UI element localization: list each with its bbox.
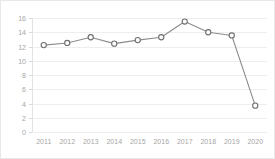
x-tick-label: 2016 xyxy=(153,138,169,145)
x-tick-label: 2014 xyxy=(106,138,122,145)
x-tick-label: 2011 xyxy=(36,138,51,145)
x-tick-label: 2013 xyxy=(83,138,99,145)
data-point-marker xyxy=(65,40,70,45)
series-line-1 xyxy=(44,22,256,106)
y-axis-labels: 0246810121416 xyxy=(18,15,26,136)
y-axis-ticks xyxy=(29,19,32,133)
data-point-marker xyxy=(206,30,211,35)
y-tick-label: 2 xyxy=(22,115,26,122)
y-tick-label: 10 xyxy=(18,58,26,65)
x-axis-labels: 2011201220132014201520162017201820192020 xyxy=(36,138,263,145)
x-tick-label: 2018 xyxy=(200,138,216,145)
line-chart: 0246810121416 20112012201320142015201620… xyxy=(0,0,275,159)
y-tick-label: 4 xyxy=(22,101,26,108)
y-tick-label: 0 xyxy=(22,129,26,136)
data-point-marker xyxy=(253,103,258,108)
data-point-marker xyxy=(159,35,164,40)
data-point-marker xyxy=(41,42,46,47)
data-point-marker xyxy=(182,19,187,24)
x-tick-label: 2015 xyxy=(130,138,146,145)
x-tick-label: 2012 xyxy=(59,138,75,145)
y-tick-label: 14 xyxy=(18,29,26,36)
y-tick-label: 6 xyxy=(22,86,26,93)
y-tick-label: 8 xyxy=(22,72,26,79)
y-tick-label: 12 xyxy=(18,44,26,51)
data-point-marker xyxy=(112,41,117,46)
y-tick-label: 16 xyxy=(18,15,26,22)
data-point-marker xyxy=(135,37,140,42)
x-tick-label: 2019 xyxy=(224,138,240,145)
x-tick-label: 2017 xyxy=(177,138,193,145)
data-point-marker xyxy=(88,35,93,40)
data-point-marker xyxy=(229,33,234,38)
chart-canvas: 0246810121416 20112012201320142015201620… xyxy=(1,1,275,159)
x-tick-label: 2020 xyxy=(247,138,263,145)
